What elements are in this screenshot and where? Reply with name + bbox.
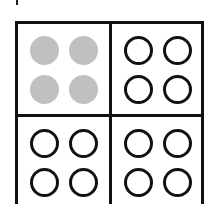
cell-top-right (112, 24, 202, 114)
empty-circle-icon (163, 75, 192, 104)
empty-circle-icon (30, 168, 59, 197)
empty-circle-icon (69, 129, 98, 158)
empty-circle-icon (69, 168, 98, 197)
empty-circle-icon (124, 129, 153, 158)
cell-top-left (18, 24, 108, 114)
cell-bottom-right (112, 117, 202, 204)
empty-circle-icon (163, 168, 192, 197)
cell-bottom-left (18, 117, 108, 204)
filled-circle-icon (30, 36, 59, 65)
filled-circle-icon (30, 75, 59, 104)
empty-circle-icon (30, 129, 59, 158)
empty-circle-icon (124, 36, 153, 65)
empty-circle-icon (124, 168, 153, 197)
top-mark (16, 0, 18, 5)
empty-circle-icon (124, 75, 153, 104)
filled-circle-icon (69, 36, 98, 65)
grid-diagram (15, 21, 204, 204)
empty-circle-icon (163, 129, 192, 158)
filled-circle-icon (69, 75, 98, 104)
empty-circle-icon (163, 36, 192, 65)
